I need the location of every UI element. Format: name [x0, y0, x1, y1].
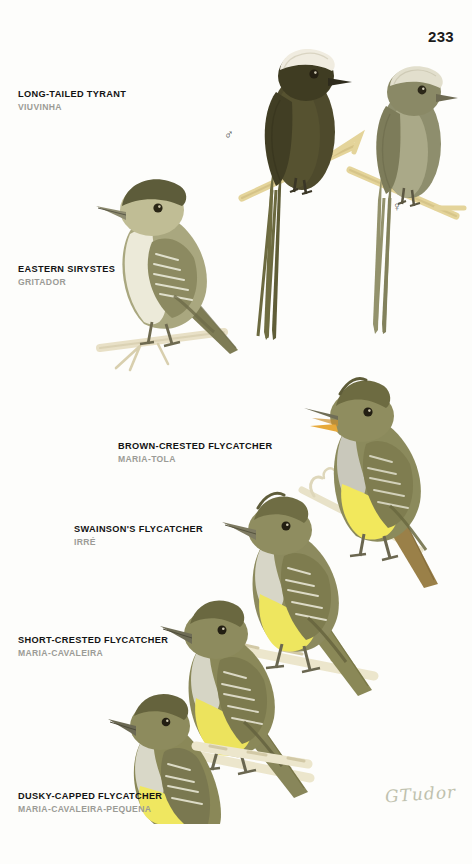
caption-short-crested-flycatcher: SHORT-CRESTED FLYCATCHER MARIA-CAVALEIRA — [18, 634, 168, 659]
caption-long-tailed-tyrant: LONG-TAILED TYRANT VIUVINHA — [18, 88, 126, 113]
species-common-name: SWAINSON'S FLYCATCHER — [74, 523, 203, 535]
page-number: 233 — [428, 28, 454, 45]
bird-long-tailed-tyrant-male — [236, 40, 366, 350]
caption-dusky-capped-flycatcher: DUSKY-CAPPED FLYCATCHER MARIA-CAVALEIRA-… — [18, 790, 162, 815]
species-local-name: MARIA-TOLA — [118, 453, 272, 465]
species-local-name: GRITADOR — [18, 276, 115, 288]
species-common-name: SHORT-CRESTED FLYCATCHER — [18, 634, 168, 646]
species-common-name: LONG-TAILED TYRANT — [18, 88, 126, 100]
sex-symbol-female-long-tailed-tyrant: ♀ — [392, 200, 402, 213]
species-local-name: MARIA-CAVALEIRA-PEQUENA — [18, 803, 162, 815]
species-local-name: IRRÉ — [74, 536, 203, 548]
bird-long-tailed-tyrant-female — [348, 58, 468, 348]
species-common-name: EASTERN SIRYSTES — [18, 263, 115, 275]
caption-brown-crested-flycatcher: BROWN-CRESTED FLYCATCHER MARIA-TOLA — [118, 440, 272, 465]
species-common-name: DUSKY-CAPPED FLYCATCHER — [18, 790, 162, 802]
species-local-name: MARIA-CAVALEIRA — [18, 647, 168, 659]
caption-eastern-sirystes: EASTERN SIRYSTES GRITADOR — [18, 263, 115, 288]
bird-eastern-sirystes — [96, 172, 246, 372]
field-guide-plate: 233 — [0, 0, 472, 864]
species-common-name: BROWN-CRESTED FLYCATCHER — [118, 440, 272, 452]
artist-signature: GTudor — [384, 782, 456, 807]
species-local-name: VIUVINHA — [18, 101, 126, 113]
caption-swainsons-flycatcher: SWAINSON'S FLYCATCHER IRRÉ — [74, 523, 203, 548]
branch-lower — [196, 716, 326, 776]
sex-symbol-male-long-tailed-tyrant: ♂ — [224, 128, 234, 141]
